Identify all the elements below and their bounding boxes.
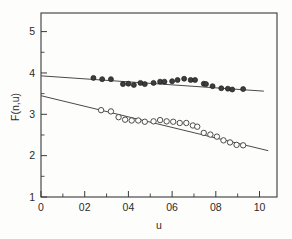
x-axis-tick-label: 02	[79, 201, 91, 213]
data-point-upper-filled	[219, 86, 224, 91]
data-point-lower-open	[122, 117, 127, 122]
y-axis-tick-label: 4	[29, 67, 35, 79]
data-point-upper-filled	[142, 82, 147, 87]
data-point-upper-filled	[193, 77, 198, 82]
chart-figure: 0020406081012345 u F(n,u)	[0, 0, 292, 239]
data-point-upper-filled	[210, 84, 215, 89]
y-axis-tick-label: 5	[29, 25, 35, 37]
x-axis-tick-label: 04	[123, 201, 135, 213]
y-axis-tick-label: 3	[29, 108, 35, 120]
data-point-lower-open	[184, 120, 189, 125]
data-point-upper-filled	[120, 82, 125, 87]
data-point-lower-open	[201, 130, 206, 135]
plot-frame	[41, 13, 277, 197]
data-point-upper-filled	[170, 79, 175, 84]
data-point-lower-open	[164, 119, 169, 124]
data-point-lower-open	[108, 109, 113, 114]
data-point-upper-filled	[230, 87, 235, 92]
scatter-plot: 0020406081012345 u F(n,u)	[0, 0, 292, 239]
data-point-upper-filled	[91, 75, 96, 80]
x-axis-tick-label: 08	[210, 201, 222, 213]
data-point-lower-open	[208, 132, 213, 137]
data-point-upper-filled	[162, 79, 167, 84]
x-axis-label: u	[156, 219, 162, 231]
data-point-lower-open	[151, 119, 156, 124]
data-point-lower-open	[171, 119, 176, 124]
data-point-upper-filled	[108, 77, 113, 82]
data-point-lower-open	[129, 118, 134, 123]
data-point-lower-open	[195, 124, 200, 129]
data-point-lower-open	[221, 138, 226, 143]
x-axis-tick-label: 0	[38, 201, 44, 213]
data-point-lower-open	[136, 118, 141, 123]
data-point-upper-filled	[203, 82, 208, 87]
x-axis-tick-label: 06	[166, 201, 178, 213]
data-point-lower-open	[240, 143, 245, 148]
data-point-upper-filled	[131, 82, 136, 87]
data-point-lower-open	[234, 142, 239, 147]
data-point-upper-filled	[182, 76, 187, 81]
data-point-lower-open	[142, 119, 147, 124]
data-point-lower-open	[98, 107, 103, 112]
data-point-lower-open	[214, 134, 219, 139]
y-axis-tick-label: 1	[29, 191, 35, 203]
data-point-lower-open	[157, 117, 162, 122]
data-point-upper-filled	[100, 77, 105, 82]
x-axis-tick-label: 10	[254, 201, 266, 213]
data-point-upper-filled	[126, 81, 131, 86]
data-point-upper-filled	[175, 77, 180, 82]
data-point-upper-filled	[241, 87, 246, 92]
y-axis-tick-label: 2	[29, 149, 35, 161]
data-point-lower-open	[177, 120, 182, 125]
data-point-lower-open	[227, 140, 232, 145]
data-point-upper-filled	[151, 80, 156, 85]
data-point-lower-open	[116, 114, 121, 119]
y-axis-label: F(n,u)	[9, 93, 21, 121]
